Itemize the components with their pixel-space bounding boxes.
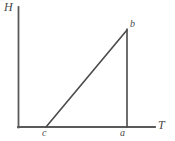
chart-canvas (0, 0, 175, 141)
hysteresis-triangle-figure: H T b c a (0, 0, 175, 141)
ramp-segment-c-to-b (46, 30, 127, 127)
x-axis-label: T (158, 119, 165, 131)
point-label-c: c (42, 128, 46, 138)
point-label-b: b (130, 19, 135, 29)
y-axis-label: H (4, 1, 13, 13)
point-label-a: a (120, 128, 125, 138)
